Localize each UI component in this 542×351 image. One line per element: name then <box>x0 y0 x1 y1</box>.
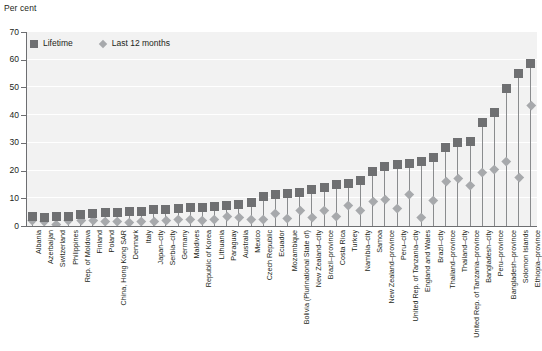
y-axis-tick <box>21 87 26 88</box>
data-point-lifetime[interactable] <box>417 157 426 166</box>
data-point-last-12-months[interactable] <box>149 216 158 225</box>
data-point-last-12-months[interactable] <box>490 164 499 173</box>
data-point-lifetime[interactable] <box>466 137 475 146</box>
data-point-last-12-months[interactable] <box>295 206 304 215</box>
data-point-last-12-months[interactable] <box>283 214 292 223</box>
data-point-lifetime[interactable] <box>502 84 511 93</box>
data-point-lifetime[interactable] <box>405 159 414 168</box>
data-point-lifetime[interactable] <box>356 176 365 185</box>
gridline <box>26 197 537 198</box>
data-point-lifetime[interactable] <box>101 208 110 217</box>
data-point-lifetime[interactable] <box>429 153 438 162</box>
connector-stem <box>360 181 361 226</box>
x-axis-category-label: Italy <box>145 230 152 243</box>
data-point-lifetime[interactable] <box>441 143 450 152</box>
data-point-last-12-months[interactable] <box>137 217 146 226</box>
data-point-last-12-months[interactable] <box>514 173 523 182</box>
x-axis-category-label: Thailand–city <box>461 230 468 272</box>
data-point-last-12-months[interactable] <box>161 216 170 225</box>
y-axis-tick-label-wrap: 10 <box>0 194 19 203</box>
data-point-last-12-months[interactable] <box>113 217 122 226</box>
data-point-last-12-months[interactable] <box>271 209 280 218</box>
data-point-lifetime[interactable] <box>332 180 341 189</box>
data-point-lifetime[interactable] <box>88 209 97 218</box>
data-point-last-12-months[interactable] <box>441 177 450 186</box>
data-point-lifetime[interactable] <box>283 189 292 198</box>
x-axis-category-label: China, Hong Kong SAR <box>120 230 127 306</box>
x-axis-category-label: Costa Rica <box>339 230 346 265</box>
data-point-last-12-months[interactable] <box>186 215 195 224</box>
data-point-lifetime[interactable] <box>149 205 158 214</box>
data-point-lifetime[interactable] <box>222 201 231 210</box>
data-point-last-12-months[interactable] <box>259 214 268 223</box>
data-point-last-12-months[interactable] <box>526 101 535 110</box>
data-point-lifetime[interactable] <box>490 108 499 117</box>
data-point-last-12-months[interactable] <box>453 173 462 182</box>
data-point-lifetime[interactable] <box>174 204 183 213</box>
data-point-last-12-months[interactable] <box>319 206 328 215</box>
y-axis-tick <box>21 143 26 144</box>
y-axis-tick <box>21 60 26 61</box>
data-point-lifetime[interactable] <box>344 179 353 188</box>
y-axis-tick-label-wrap: 30 <box>0 138 19 147</box>
data-point-lifetime[interactable] <box>393 160 402 169</box>
data-point-last-12-months[interactable] <box>210 214 219 223</box>
x-axis-category-label: Paraguay <box>230 230 237 261</box>
data-point-lifetime[interactable] <box>380 162 389 171</box>
x-axis-category-label: Germany <box>181 230 188 260</box>
data-point-last-12-months[interactable] <box>100 216 109 225</box>
data-point-last-12-months[interactable] <box>173 215 182 224</box>
legend-label-lifetime: Lifetime <box>43 38 73 49</box>
data-point-lifetime[interactable] <box>125 207 134 216</box>
data-point-lifetime[interactable] <box>368 167 377 176</box>
data-point-last-12-months[interactable] <box>246 215 255 224</box>
data-point-lifetime[interactable] <box>247 198 256 207</box>
data-point-lifetime[interactable] <box>198 203 207 212</box>
x-axis-category-label: Mexico <box>254 230 261 253</box>
data-point-lifetime[interactable] <box>478 118 487 127</box>
data-point-lifetime[interactable] <box>271 190 280 199</box>
data-point-lifetime[interactable] <box>113 208 122 217</box>
connector-stem <box>433 157 434 226</box>
data-point-last-12-months[interactable] <box>465 180 474 189</box>
data-point-lifetime[interactable] <box>210 202 219 211</box>
data-point-lifetime[interactable] <box>453 138 462 147</box>
data-point-last-12-months[interactable] <box>234 213 243 222</box>
data-point-lifetime[interactable] <box>186 203 195 212</box>
x-axis-category-label: United Rep. of Tanzania–province <box>473 230 480 338</box>
y-axis-tick <box>21 198 26 199</box>
data-point-last-12-months[interactable] <box>332 212 341 221</box>
x-axis-category-label: New Zealand–province <box>388 230 395 304</box>
data-point-lifetime[interactable] <box>295 188 304 197</box>
data-point-lifetime[interactable] <box>76 210 85 219</box>
data-point-last-12-months[interactable] <box>417 213 426 222</box>
data-point-lifetime[interactable] <box>161 205 170 214</box>
x-axis-line <box>26 226 537 227</box>
x-axis-category-label: Azerbaijan <box>47 230 54 264</box>
data-point-lifetime[interactable] <box>64 212 73 221</box>
data-point-lifetime[interactable] <box>137 207 146 216</box>
y-axis-tick-label: 50 <box>0 83 19 92</box>
data-point-lifetime[interactable] <box>307 185 316 194</box>
data-point-last-12-months[interactable] <box>307 213 316 222</box>
data-point-last-12-months[interactable] <box>392 204 401 213</box>
data-point-lifetime[interactable] <box>28 212 37 221</box>
data-point-lifetime[interactable] <box>514 69 523 78</box>
data-point-lifetime[interactable] <box>526 59 535 68</box>
x-axis-category-label: Solomon Islands <box>522 230 529 283</box>
data-point-last-12-months[interactable] <box>344 201 353 210</box>
data-point-last-12-months[interactable] <box>125 218 134 226</box>
y-axis-tick-label-wrap: 70 <box>0 28 19 37</box>
data-point-lifetime[interactable] <box>234 200 243 209</box>
data-point-last-12-months[interactable] <box>380 195 389 204</box>
data-point-lifetime[interactable] <box>259 192 268 201</box>
data-point-lifetime[interactable] <box>52 212 61 221</box>
connector-stem <box>445 147 446 226</box>
data-point-last-12-months[interactable] <box>198 215 207 224</box>
data-point-last-12-months[interactable] <box>502 157 511 166</box>
data-point-lifetime[interactable] <box>320 183 329 192</box>
data-point-lifetime[interactable] <box>40 213 49 222</box>
data-point-last-12-months[interactable] <box>356 205 365 214</box>
data-point-last-12-months[interactable] <box>222 212 231 221</box>
